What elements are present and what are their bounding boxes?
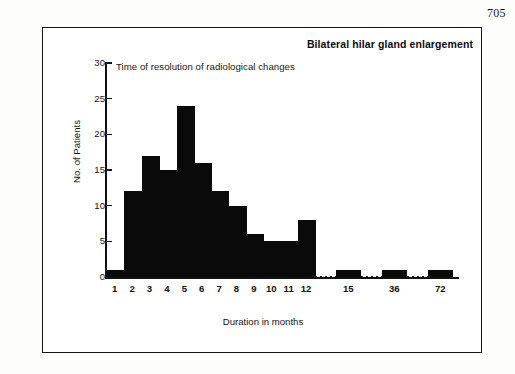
axis-break-dots [315, 276, 336, 278]
bar [107, 270, 125, 277]
y-tick-label: 5 [59, 235, 105, 246]
y-axis-label: No. of Patients [71, 92, 82, 212]
bar [298, 220, 316, 277]
bar [229, 206, 247, 277]
x-axis-label: Duration in months [105, 316, 421, 327]
tail-bar [336, 270, 361, 277]
y-tick-label: 0 [59, 271, 105, 282]
figure-frame: Bilateral hilar gland enlargement Time o… [42, 27, 482, 353]
histogram-chart: Bilateral hilar gland enlargement Time o… [43, 28, 483, 354]
bar [211, 191, 229, 277]
y-tick-label: 20 [59, 128, 105, 139]
x-tick-label: 72 [429, 283, 451, 294]
x-tick-label: 15 [337, 283, 359, 294]
tail-bar [428, 270, 453, 277]
plot-area [106, 63, 421, 277]
bar [281, 241, 299, 277]
chart-title: Bilateral hilar gland enlargement [43, 38, 473, 50]
bar [194, 163, 212, 277]
tail-bar [382, 270, 407, 277]
y-tick-label: 10 [59, 200, 105, 211]
bar [142, 156, 160, 277]
bar [246, 234, 264, 277]
bar [124, 191, 142, 277]
page-canvas: 705 Bilateral hilar gland enlargement Ti… [0, 0, 515, 374]
y-tick-label: 15 [59, 164, 105, 175]
x-tick-label: 36 [383, 283, 405, 294]
axis-break-dots [361, 276, 382, 278]
bar [264, 241, 282, 277]
y-tick-label: 30 [59, 57, 105, 68]
bar [159, 170, 177, 277]
axis-break-dots [407, 276, 428, 278]
x-axis-line [105, 277, 459, 279]
y-tick-label: 25 [59, 93, 105, 104]
bar [177, 106, 195, 277]
x-tick-label: 12 [295, 283, 317, 294]
page-number: 705 [487, 6, 506, 21]
